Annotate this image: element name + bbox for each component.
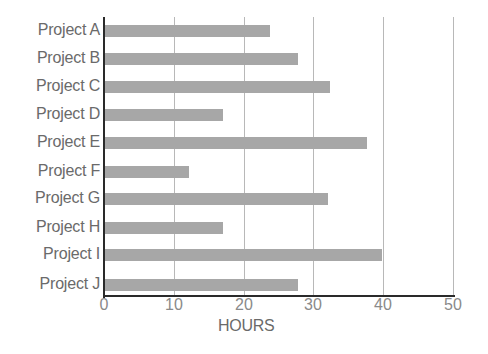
category-label: Project A — [0, 21, 100, 39]
category-label: Project J — [0, 275, 100, 293]
category-label: Project D — [0, 105, 100, 123]
bar — [105, 222, 223, 234]
bar — [105, 193, 328, 205]
gridline — [453, 17, 454, 296]
category-label: Project E — [0, 133, 100, 151]
bar — [105, 249, 382, 261]
x-axis-title: HOURS — [218, 316, 274, 336]
hours-bar-chart: Project AProject BProject CProject DProj… — [0, 0, 488, 354]
bar — [105, 25, 270, 37]
category-label: Project C — [0, 77, 100, 95]
bar — [105, 137, 367, 149]
bar — [105, 109, 223, 121]
category-label: Project G — [0, 189, 100, 207]
category-label: Project F — [0, 162, 100, 180]
x-tick-label: 30 — [293, 296, 333, 314]
category-label: Project B — [0, 49, 100, 67]
category-label: Project I — [0, 245, 100, 263]
bar — [105, 279, 298, 291]
x-tick-label: 20 — [224, 296, 264, 314]
y-axis-line — [103, 17, 105, 298]
x-tick-label: 50 — [433, 296, 473, 314]
x-tick-label: 0 — [84, 296, 124, 314]
gridline — [383, 17, 384, 296]
bar — [105, 53, 298, 65]
x-tick-label: 10 — [154, 296, 194, 314]
x-tick-label: 40 — [363, 296, 403, 314]
bar — [105, 166, 189, 178]
category-label: Project H — [0, 218, 100, 236]
bar — [105, 81, 330, 93]
